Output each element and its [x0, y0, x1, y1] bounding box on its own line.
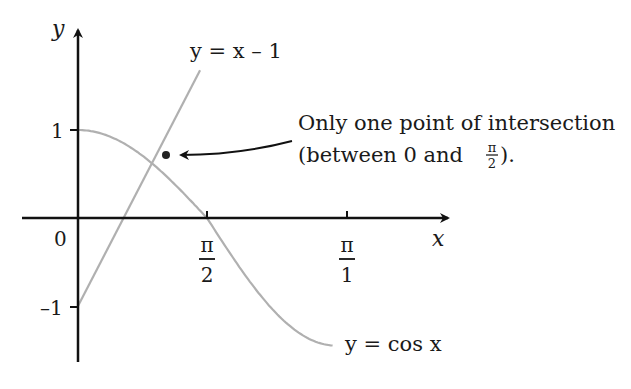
cos-label: y = cos x — [344, 332, 442, 356]
annotation-suffix: ). — [500, 143, 515, 167]
x-tick-label-pi2-num: π — [200, 233, 213, 257]
line-label: y = x – 1 — [189, 39, 282, 63]
y-tick-label-1: 1 — [51, 119, 64, 143]
intersection-point — [162, 151, 170, 159]
y-axis-label: y — [51, 16, 65, 41]
annotation-prefix: (between 0 and — [298, 143, 463, 167]
x-tick-label-pi-den: 1 — [341, 263, 354, 287]
graph-diagram: y x 0 1 –1 π 2 π 1 y = x – 1 y = cos x O… — [0, 0, 631, 389]
annotation-line2: (between 0 and — [298, 143, 463, 167]
annotation-arrow — [181, 141, 292, 155]
y-tick-label-minus1: –1 — [40, 296, 63, 320]
x-tick-label-pi-num: π — [340, 233, 353, 257]
annotation-frac-den: 2 — [488, 156, 496, 171]
line-curve — [78, 70, 200, 306]
x-axis-label: x — [432, 226, 445, 251]
plot: y x 0 1 –1 π 2 π 1 y = x – 1 y = cos x O… — [0, 0, 631, 389]
annotation-frac-num: π — [488, 140, 497, 155]
annotation-line1: Only one point of intersection — [298, 111, 615, 135]
origin-label: 0 — [54, 227, 67, 251]
x-tick-label-pi2-den: 2 — [201, 263, 214, 287]
